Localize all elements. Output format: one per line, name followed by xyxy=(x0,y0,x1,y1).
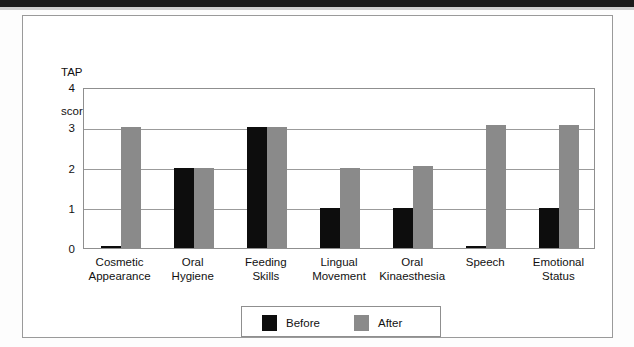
bar-after xyxy=(559,125,579,248)
x-axis-category-label-line: Movement xyxy=(302,269,375,283)
bar-group xyxy=(377,89,450,248)
bar-group xyxy=(450,89,523,248)
bar-before xyxy=(174,168,194,249)
x-axis-category-label-line: Kinaesthesia xyxy=(376,269,449,283)
x-axis-labels: CosmeticAppearanceOralHygieneFeedingSkil… xyxy=(83,255,595,295)
y-axis-tick-label: 0 xyxy=(53,243,75,255)
x-axis-category-label-line: Emotional xyxy=(522,255,595,269)
bar-group xyxy=(230,89,303,248)
bar-after xyxy=(413,166,433,249)
x-axis-category-label-line: Oral xyxy=(156,255,229,269)
bar-before xyxy=(320,208,340,248)
bar-after xyxy=(267,127,287,248)
x-axis-category-label-line: Status xyxy=(522,269,595,283)
legend-item-after: After xyxy=(354,314,402,331)
y-axis-tick-label: 1 xyxy=(53,203,75,215)
scan-artifact-bar xyxy=(0,0,634,7)
x-axis-category-label: LingualMovement xyxy=(302,255,375,283)
bar-before xyxy=(539,208,559,248)
x-axis-category-label-line: Lingual xyxy=(302,255,375,269)
y-axis-tick-label: 3 xyxy=(53,122,75,134)
x-axis-category-label-line: Hygiene xyxy=(156,269,229,283)
legend-item-before: Before xyxy=(262,314,320,331)
x-axis-category-label: OralKinaesthesia xyxy=(376,255,449,283)
legend-swatch-after-icon xyxy=(354,315,369,331)
bar-before xyxy=(393,208,413,248)
x-axis-category-label-line: Speech xyxy=(449,255,522,269)
bar-after xyxy=(486,125,506,248)
chart-legend: Before After xyxy=(241,306,441,337)
bar-group xyxy=(157,89,230,248)
legend-label-before: Before xyxy=(286,317,320,329)
bar-group xyxy=(523,89,596,248)
x-axis-category-label-line: Appearance xyxy=(83,269,156,283)
bars-layer xyxy=(84,89,594,248)
scan-artifact-bar-light xyxy=(0,7,634,10)
bar-before xyxy=(247,127,267,248)
x-axis-category-label-line: Feeding xyxy=(229,255,302,269)
x-axis-category-label-line: Cosmetic xyxy=(83,255,156,269)
bar-before xyxy=(466,246,486,248)
x-axis-category-label: EmotionalStatus xyxy=(522,255,595,283)
bar-group xyxy=(84,89,157,248)
x-axis-category-label: FeedingSkills xyxy=(229,255,302,283)
x-axis-category-label: Speech xyxy=(449,255,522,269)
y-axis-tick-label: 4 xyxy=(53,82,75,94)
x-axis-category-label-line: Oral xyxy=(376,255,449,269)
screenshot-root: TAP score 01234 CosmeticAppearanceOralHy… xyxy=(0,0,634,347)
x-axis-category-label: CosmeticAppearance xyxy=(83,255,156,283)
legend-label-after: After xyxy=(378,317,402,329)
bar-after xyxy=(194,168,214,249)
bar-before xyxy=(101,246,121,248)
bar-after xyxy=(121,127,141,248)
y-axis-title-line1: TAP xyxy=(61,66,89,79)
y-axis-tick-label: 2 xyxy=(53,163,75,175)
x-axis-category-label: OralHygiene xyxy=(156,255,229,283)
legend-swatch-before-icon xyxy=(262,315,277,331)
x-axis-category-label-line: Skills xyxy=(229,269,302,283)
figure-frame: TAP score 01234 CosmeticAppearanceOralHy… xyxy=(22,15,613,338)
bar-group xyxy=(303,89,376,248)
bar-after xyxy=(340,168,360,249)
plot-area xyxy=(83,88,595,249)
